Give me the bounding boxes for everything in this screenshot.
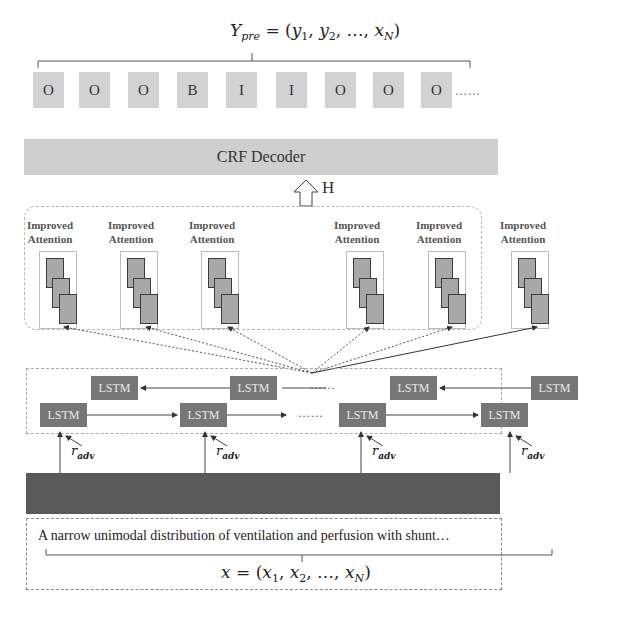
formula-text: = (	[231, 562, 263, 582]
formula-sub: 1	[272, 572, 279, 585]
formula-text: ,	[279, 562, 290, 582]
formula-text: x	[345, 562, 355, 582]
formula-text: )	[364, 562, 371, 582]
formula-text: x	[262, 562, 272, 582]
input-formula: x = (x1, x2, …, xN)	[221, 562, 371, 585]
input-brace	[0, 0, 619, 622]
formula-sub: N	[355, 572, 365, 585]
formula-text: , …,	[306, 562, 345, 582]
formula-text: x	[290, 562, 300, 582]
formula-text: x	[221, 562, 231, 582]
